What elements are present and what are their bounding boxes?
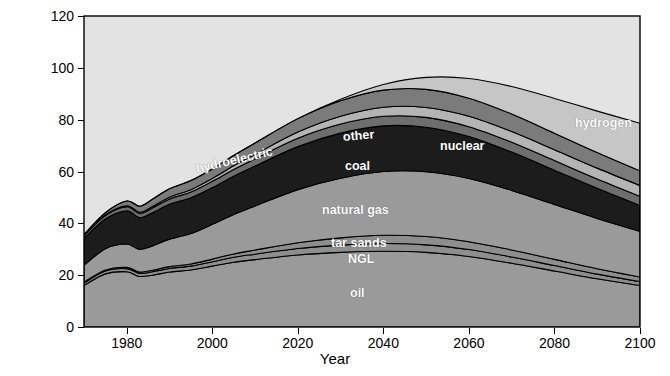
x-tick-mark xyxy=(212,328,213,334)
y-tick-label: 60 xyxy=(28,165,74,179)
x-axis-title: Year xyxy=(0,350,670,367)
y-tick-label: 40 xyxy=(28,216,74,230)
x-tick-label: 2020 xyxy=(268,336,328,350)
y-tick-label: 80 xyxy=(28,113,74,127)
area-label-nuclear: nuclear xyxy=(440,139,484,153)
x-tick-label: 1980 xyxy=(97,336,157,350)
x-tick-label: 2100 xyxy=(610,336,670,350)
stacked-area-plot xyxy=(0,0,670,376)
y-tick-label: 120 xyxy=(28,9,74,23)
chart-root: Billion barrels of oil equivalent per ye… xyxy=(0,0,670,376)
y-tick-mark xyxy=(78,16,84,17)
y-tick-mark xyxy=(78,172,84,173)
x-tick-mark xyxy=(469,328,470,334)
y-tick-label: 100 xyxy=(28,61,74,75)
area-label-NGL: NGL xyxy=(348,252,374,266)
area-label-hydrogen: hydrogen xyxy=(575,116,632,130)
area-label-natural-gas: natural gas xyxy=(322,203,389,217)
area-label-tar-sands: tar sands xyxy=(331,236,387,250)
x-tick-label: 2040 xyxy=(353,336,413,350)
area-label-other: other xyxy=(342,127,374,144)
y-tick-mark xyxy=(78,275,84,276)
y-tick-label: 0 xyxy=(28,320,74,334)
x-tick-mark xyxy=(640,328,641,334)
x-tick-label: 2000 xyxy=(182,336,242,350)
y-tick-mark xyxy=(78,327,84,328)
x-tick-mark xyxy=(298,328,299,334)
y-tick-mark xyxy=(78,120,84,121)
y-tick-label: 20 xyxy=(28,268,74,282)
area-label-coal: coal xyxy=(345,159,370,173)
y-tick-mark xyxy=(78,223,84,224)
area-label-oil: oil xyxy=(350,286,365,300)
x-tick-label: 2080 xyxy=(524,336,584,350)
x-tick-mark xyxy=(554,328,555,334)
x-tick-label: 2060 xyxy=(439,336,499,350)
x-tick-mark xyxy=(127,328,128,334)
x-tick-mark xyxy=(383,328,384,334)
y-tick-mark xyxy=(78,68,84,69)
